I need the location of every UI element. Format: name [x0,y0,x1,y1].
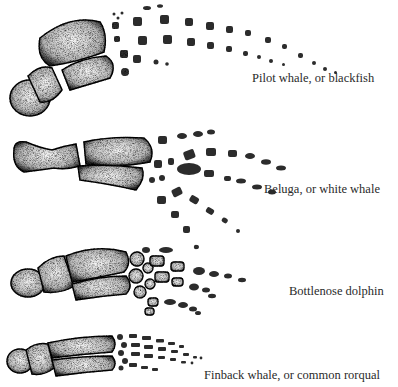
flipper-skeleton-figure: Pilot whale, or blackfish Beluga, or whi… [0,0,398,387]
label-pilot-whale: Pilot whale, or blackfish [252,71,374,86]
pilot-whale-flipper [10,20,129,116]
pilot-whale-phalanges [113,4,338,74]
beluga-flipper [14,138,152,191]
label-beluga: Beluga, or white whale [264,182,380,197]
finback-whale-phalanges [117,334,202,371]
label-finback-whale: Finback whale, or common rorqual [204,368,380,383]
bottlenose-dolphin-flipper [11,249,184,315]
finback-whale-flipper [7,336,115,376]
label-bottlenose-dolphin: Bottlenose dolphin [289,284,384,299]
